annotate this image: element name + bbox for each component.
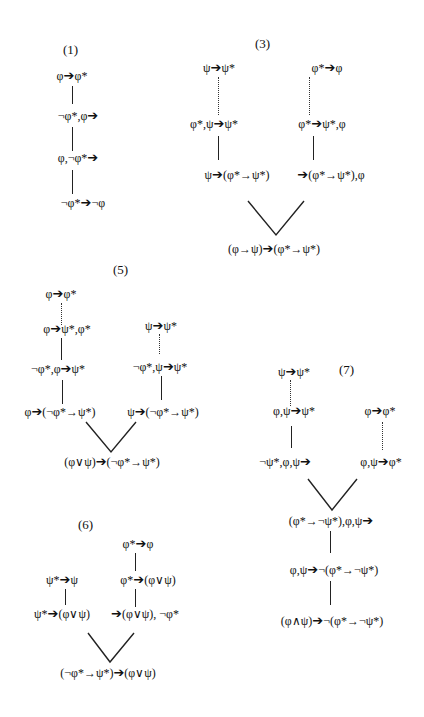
sequent-arrow-icon: ➔: [96, 454, 107, 469]
antecedent: ψ: [278, 365, 286, 379]
antecedent: (¬φ*→ψ*): [60, 666, 113, 680]
inference-line: [135, 553, 136, 571]
succedent: ψ*: [72, 362, 86, 376]
sequent: φ*➔φ: [312, 61, 343, 75]
sequent-arrow-icon: ➔: [81, 195, 92, 210]
antecedent: ψ: [205, 168, 213, 182]
sequent-arrow-icon: ➔: [311, 116, 322, 131]
succedent: (φ*→ψ*): [273, 242, 319, 256]
succedent: (¬φ*→ψ*): [146, 405, 199, 419]
sequent-arrow-icon: ➔: [291, 403, 302, 418]
antecedent: ψ*: [46, 573, 60, 587]
antecedent: φ*: [298, 117, 311, 131]
antecedent: ¬φ*,ψ: [133, 360, 163, 374]
sequent: φ*,ψ➔ψ*: [190, 117, 238, 131]
conclusion-sequent: (φ∧ψ)➔¬(φ*→¬ψ*): [281, 614, 383, 628]
antecedent: ψ*: [34, 607, 48, 621]
sequent-arrow-icon: ➔: [211, 60, 222, 75]
antecedent: φ*,ψ: [190, 117, 213, 131]
antecedent: φ,ψ: [290, 563, 307, 577]
sequent: ψ*➔ψ: [46, 573, 78, 587]
sequent-arrow-icon: ➔: [133, 572, 144, 587]
antecedent: ψ: [127, 405, 135, 419]
inference-line: [72, 86, 73, 104]
sequent: φ,¬φ*➔: [58, 151, 99, 165]
succedent: (¬φ*→ψ*): [42, 405, 95, 419]
sequent-arrow-icon: ➔: [60, 572, 71, 587]
sequent: φ➔φ*: [57, 69, 88, 83]
conclusion-sequent: (φ∨ψ)➔(¬φ*→ψ*): [64, 455, 160, 469]
sequent-arrow-icon: ➔: [136, 536, 147, 551]
inference-line: [313, 136, 314, 160]
sequent: ➔(φ*→ψ*),φ: [297, 168, 364, 182]
dotted-derivation-line: [309, 77, 310, 115]
antecedent: ψ: [145, 319, 153, 333]
succedent: ψ: [70, 573, 78, 587]
sequent: φ➔ψ*,φ*: [43, 322, 90, 336]
sequent-arrow-icon: ➔: [64, 68, 75, 83]
antecedent: φ*: [120, 573, 133, 587]
sequent-arrow-icon: ➔: [111, 606, 122, 621]
succedent: (¬φ*→ψ*): [107, 455, 160, 469]
sequent-arrow-icon: ➔: [87, 108, 98, 123]
sequent: φ➔(¬φ*→ψ*): [24, 405, 95, 419]
sequent: φ*➔φ: [123, 537, 154, 551]
sequent: ψ➔ψ*: [278, 365, 310, 379]
dotted-derivation-line: [382, 422, 383, 450]
conclusion-sequent: (φ→ψ)➔(φ*→ψ*): [228, 242, 320, 256]
succedent: φ*: [74, 69, 87, 83]
inference-line: [218, 136, 219, 160]
succedent: ψ*: [163, 319, 177, 333]
sequent: ¬φ*,φ➔ψ*: [31, 362, 85, 376]
inference-line: [61, 338, 62, 360]
succedent: φ*: [389, 455, 402, 469]
sequent-arrow-icon: ➔: [263, 241, 274, 256]
inference-line: [291, 426, 292, 448]
sequent-arrow-icon: ➔: [135, 404, 146, 419]
sequent: ψ➔ψ*: [203, 61, 235, 75]
succedent: (φ∨ψ): [144, 573, 175, 587]
dotted-derivation-line: [218, 77, 219, 115]
sequent: ¬ψ*,φ,ψ➔: [259, 455, 311, 469]
sequent: ¬φ*➔¬φ: [61, 196, 105, 210]
inference-line: [330, 531, 331, 553]
antecedent: φ,ψ: [273, 404, 290, 418]
antecedent: φ: [43, 322, 50, 336]
sequent-arrow-icon: ➔: [286, 364, 297, 379]
sequent-arrow-icon: ➔: [212, 167, 223, 182]
succedent: ψ*,φ*: [61, 322, 90, 336]
sequent: ψ➔ψ*: [145, 319, 177, 333]
antecedent: (φ∨ψ): [64, 455, 95, 469]
dotted-derivation-line: [159, 334, 160, 354]
sequent-arrow-icon: ➔: [53, 286, 64, 301]
sequent: ψ➔(¬φ*→ψ*): [127, 405, 199, 419]
antecedent: φ: [46, 287, 53, 301]
inference-line: [62, 380, 63, 404]
antecedent: φ: [24, 405, 31, 419]
inference-line: [65, 589, 66, 605]
sequent-arrow-icon: ➔: [48, 606, 59, 621]
antecedent: φ,ψ: [360, 455, 377, 469]
proof-6-label: (6): [78, 517, 93, 533]
antecedent: ¬φ*,φ: [31, 362, 61, 376]
succedent: (φ∨ψ), ¬φ*: [122, 607, 179, 621]
antecedent: ¬ψ*,φ,ψ: [259, 455, 300, 469]
proof-5-label: (5): [113, 262, 128, 278]
succedent: ψ*: [296, 365, 310, 379]
antecedent: φ: [57, 69, 64, 83]
sequent-arrow-icon: ➔: [50, 321, 61, 336]
sequent-arrow-icon: ➔: [312, 613, 323, 628]
succedent: (φ∨ψ): [124, 666, 155, 680]
succedent: (φ*→ψ*): [223, 168, 269, 182]
succedent: ψ*: [221, 61, 235, 75]
sequent-arrow-icon: ➔: [297, 167, 308, 182]
antecedent: φ: [365, 404, 372, 418]
succedent: ¬(φ*→¬ψ*): [318, 563, 378, 577]
sequent: φ*➔ψ*,φ: [298, 117, 345, 131]
sequent: ψ➔(φ*→ψ*): [205, 168, 270, 182]
sequent: φ,ψ➔¬(φ*→¬ψ*): [290, 563, 378, 577]
inference-line: [72, 170, 73, 194]
antecedent: (φ→ψ): [228, 242, 262, 256]
antecedent: φ*: [123, 537, 136, 551]
conclusion-sequent: (¬φ*→ψ*)➔(φ∨ψ): [60, 666, 156, 680]
